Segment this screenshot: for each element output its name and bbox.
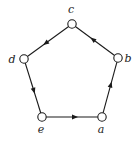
arrowhead-icon bbox=[108, 82, 113, 88]
node-e bbox=[38, 113, 46, 121]
diagram-svg: abcde bbox=[0, 0, 137, 141]
node-label-a: a bbox=[98, 123, 105, 136]
node-label-c: c bbox=[68, 3, 74, 16]
node-label-e: e bbox=[38, 123, 45, 136]
arrowhead-icon bbox=[31, 87, 36, 93]
edge-d-to-e bbox=[25, 63, 41, 113]
nodes-group bbox=[20, 20, 122, 121]
node-c bbox=[68, 20, 76, 28]
edge-a-to-b bbox=[103, 62, 117, 113]
node-label-d: d bbox=[8, 53, 15, 66]
arrowhead-icon bbox=[90, 38, 96, 43]
edges-group bbox=[25, 26, 117, 117]
arrowhead-icon bbox=[72, 115, 78, 120]
node-b bbox=[114, 54, 122, 62]
node-d bbox=[20, 55, 28, 63]
arrowhead-icon bbox=[43, 40, 49, 45]
node-label-b: b bbox=[124, 52, 131, 65]
pentagon-cycle-diagram: abcde bbox=[0, 0, 137, 141]
arrowheads-group bbox=[31, 38, 113, 120]
node-a bbox=[98, 113, 106, 121]
